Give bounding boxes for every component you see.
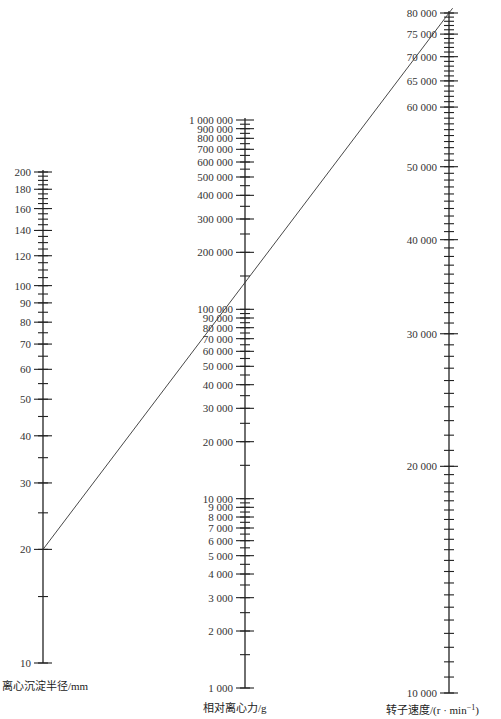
tick-label: 600 000 <box>197 156 233 168</box>
tick-label: 70 000 <box>203 333 234 345</box>
tick-label: 180 <box>15 183 32 195</box>
tick-label: 5 000 <box>208 550 233 562</box>
tick-label: 60 <box>20 363 32 375</box>
radius-axis-title: 离心沉淀半径/mm <box>2 679 89 692</box>
tick-label: 70 000 <box>407 51 438 63</box>
rcf-axis-title: 相对离心力/g <box>203 701 267 714</box>
tick-label: 10 <box>20 657 32 669</box>
example-alignment-line <box>43 8 453 549</box>
tick-label: 100 <box>15 280 32 292</box>
tick-label: 60 000 <box>203 345 234 357</box>
tick-label: 300 000 <box>197 213 233 225</box>
tick-label: 1 000 <box>208 682 233 694</box>
tick-label: 30 000 <box>407 328 438 340</box>
tick-label: 200 000 <box>197 246 233 258</box>
tick-label: 50 <box>20 393 32 405</box>
tick-label: 80 <box>20 316 32 328</box>
tick-label: 4 000 <box>208 568 233 580</box>
tick-label: 40 000 <box>203 379 234 391</box>
tick-label: 60 000 <box>407 101 438 113</box>
tick-label: 140 <box>15 224 32 236</box>
tick-label: 10 000 <box>407 687 438 699</box>
tick-label: 160 <box>15 203 32 215</box>
tick-label: 90 <box>20 297 32 309</box>
tick-label: 10 000 <box>203 493 234 505</box>
tick-label: 20 000 <box>407 460 438 472</box>
tick-label: 1 000 000 <box>189 114 234 126</box>
tick-label: 120 <box>15 250 32 262</box>
tick-label: 50 000 <box>407 161 438 173</box>
radius-axis: 102030405060708090100120140160180200 <box>15 166 53 669</box>
tick-label: 40 <box>20 430 32 442</box>
speed-axis: 10 00020 00030 00040 00050 00060 00065 0… <box>407 7 458 699</box>
tick-label: 20 000 <box>203 436 234 448</box>
tick-label: 40 000 <box>407 234 438 246</box>
tick-label: 80 000 <box>407 7 438 19</box>
tick-label: 7 000 <box>208 522 233 534</box>
tick-label: 2 000 <box>208 625 233 637</box>
tick-label: 700 000 <box>197 143 233 155</box>
tick-label: 3 000 <box>208 592 233 604</box>
tick-label: 400 000 <box>197 189 233 201</box>
tick-label: 20 <box>20 543 32 555</box>
tick-label: 50 000 <box>203 360 234 372</box>
tick-label: 30 <box>20 477 32 489</box>
tick-label: 30 000 <box>203 402 234 414</box>
tick-label: 6 000 <box>208 535 233 547</box>
centrifuge-nomogram: 102030405060708090100120140160180200 1 0… <box>0 0 501 719</box>
tick-label: 70 <box>20 338 32 350</box>
tick-label: 200 <box>15 166 32 178</box>
speed-axis-title: 转子速度/(r · min−1) <box>386 703 479 717</box>
tick-label: 65 000 <box>407 75 438 87</box>
tick-label: 500 000 <box>197 171 233 183</box>
rcf-axis: 1 0002 0003 0004 0005 0006 0007 0008 000… <box>189 114 254 694</box>
